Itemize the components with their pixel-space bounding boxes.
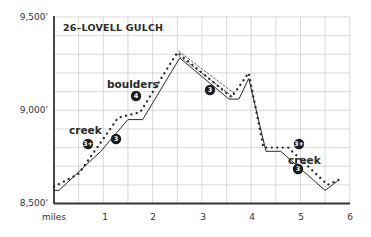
annotation-boulders: boulders <box>107 78 159 90</box>
svg-text:3: 3 <box>114 135 119 143</box>
svg-text:3: 3 <box>208 86 213 94</box>
difficulty-badge: 4 <box>131 91 141 101</box>
x-tick-2: 2 <box>150 212 156 222</box>
svg-text:4: 4 <box>134 92 139 100</box>
y-tick-8500: 8,500' <box>20 198 48 208</box>
difficulty-badge: 3+ <box>294 139 304 149</box>
difficulty-badge: 3+ <box>83 139 93 149</box>
chart-grid <box>54 17 350 204</box>
elevation-chart: 9,500' 9,000' 8,500' miles 1 2 3 4 5 6 2… <box>0 0 371 237</box>
y-tick-9500: 9,500' <box>20 12 48 22</box>
difficulty-badge: 3 <box>205 85 215 95</box>
x-tick-5: 5 <box>298 212 304 222</box>
annotation-creek-1: creek <box>69 124 103 136</box>
difficulty-badge: 3 <box>293 164 303 174</box>
difficulty-badge: 3 <box>111 134 121 144</box>
svg-text:3+: 3+ <box>83 140 93 148</box>
y-tick-9000: 9,000' <box>20 105 48 115</box>
x-tick-3: 3 <box>200 212 206 222</box>
x-axis-label: miles <box>42 212 66 222</box>
x-tick-1: 1 <box>102 212 108 222</box>
chart-title: 26–LOVELL GULCH <box>63 22 163 33</box>
x-tick-6: 6 <box>347 212 353 222</box>
svg-text:3+: 3+ <box>294 140 304 148</box>
annotation-creek-2: creek <box>288 154 322 166</box>
x-tick-4: 4 <box>249 212 255 222</box>
svg-text:3: 3 <box>296 165 301 173</box>
